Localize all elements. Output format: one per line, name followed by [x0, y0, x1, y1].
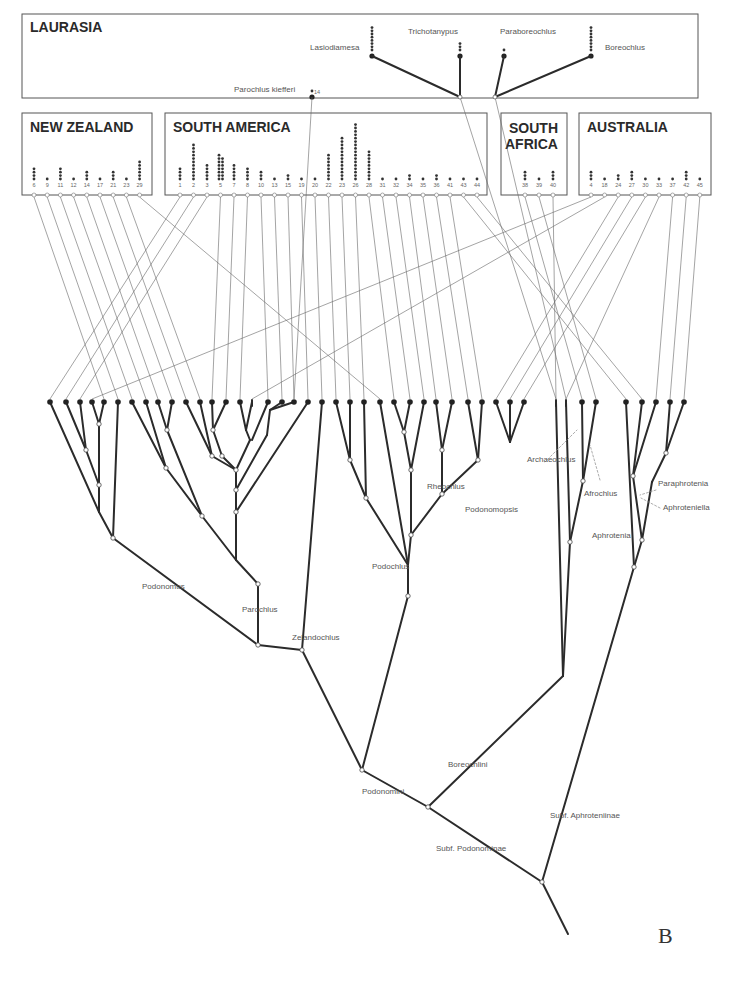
branch	[246, 430, 250, 440]
occurrence-dot	[99, 178, 102, 181]
area-node	[300, 193, 304, 197]
branch	[99, 402, 104, 424]
area-node	[394, 193, 398, 197]
branch	[92, 402, 99, 424]
sa-area-number: 26	[352, 182, 358, 188]
leaf-node	[639, 399, 645, 405]
occurrence-dot	[218, 161, 221, 164]
branch	[634, 540, 642, 567]
occurrence-dot	[179, 167, 182, 170]
leaf-node	[305, 399, 311, 405]
occurrence-dot	[459, 45, 462, 48]
area-node	[124, 193, 128, 197]
vicariance-cladogram: LAURASIANEW ZEALANDSOUTH AMERICASOUTHAFR…	[0, 0, 746, 984]
area-node	[589, 193, 593, 197]
leaf-node	[449, 399, 455, 405]
occurrence-dot	[590, 174, 593, 177]
occurrence-dot	[462, 178, 465, 181]
area-node	[671, 193, 675, 197]
clade-label: Boreochlini	[448, 760, 488, 769]
clade-label: Podonomus	[142, 582, 185, 591]
leaf-node	[361, 399, 367, 405]
connector-line	[342, 197, 350, 399]
branch	[582, 402, 583, 481]
sa-area-number: 43	[460, 182, 466, 188]
internal-node	[409, 533, 413, 537]
connector-line	[74, 197, 146, 399]
internal-node	[300, 648, 304, 652]
connector-line	[66, 197, 194, 399]
region-title: AUSTRALIA	[587, 119, 668, 135]
area-connector-lines	[34, 97, 700, 399]
occurrence-dot	[538, 178, 541, 181]
occurrence-dot	[341, 147, 344, 150]
occurrence-dot	[590, 39, 593, 42]
occurrence-dot	[371, 49, 374, 52]
occurrence-dot	[552, 178, 555, 181]
occurrence-dot	[206, 174, 209, 177]
branch	[542, 567, 634, 882]
connector-line	[315, 197, 322, 399]
branch	[626, 402, 634, 567]
sa-area-number: 13	[271, 182, 277, 188]
occurrence-dot	[354, 147, 357, 150]
branch	[372, 56, 460, 97]
internal-node	[360, 768, 364, 772]
branch	[642, 482, 652, 540]
area-node	[448, 193, 452, 197]
occurrence-dot	[233, 178, 236, 181]
occurrence-dot	[354, 133, 357, 136]
occurrence-dot	[368, 178, 371, 181]
sa-area-number: 20	[312, 182, 318, 188]
occurrence-dot	[221, 161, 224, 164]
leaf-node	[129, 399, 135, 405]
branch	[167, 402, 172, 430]
node	[458, 95, 462, 99]
occurrence-dot	[368, 154, 371, 157]
leaf-node	[391, 399, 397, 405]
branch	[336, 402, 350, 460]
occurrence-dot	[395, 178, 398, 181]
branch	[566, 402, 570, 542]
occurrence-dot	[590, 33, 593, 36]
internal-node	[111, 536, 115, 540]
occurrence-dot	[371, 42, 374, 45]
connector-line	[566, 197, 659, 399]
region-title: SOUTH AMERICA	[173, 119, 291, 135]
internal-node	[210, 454, 214, 458]
occurrence-dot	[206, 167, 209, 170]
occurrence-dot	[354, 167, 357, 170]
occurrence-dot	[218, 174, 221, 177]
leaf-node	[265, 399, 271, 405]
leaf-node	[279, 399, 285, 405]
occurrence-dot	[192, 164, 195, 167]
internal-node	[84, 448, 88, 452]
connector-line	[396, 197, 424, 399]
leaf-node	[623, 399, 629, 405]
sa-area-number: 22	[325, 182, 331, 188]
occurrence-dot	[524, 174, 527, 177]
connector-line	[60, 197, 132, 399]
internal-node	[220, 454, 224, 458]
occurrence-dot	[354, 130, 357, 133]
occurrence-dot	[630, 171, 633, 174]
internal-node	[97, 422, 101, 426]
occurrence-dot	[85, 174, 88, 177]
area-node	[178, 193, 182, 197]
occurrence-dot	[33, 178, 36, 181]
occurrence-dot	[33, 167, 36, 170]
branch	[240, 402, 246, 430]
branch	[380, 402, 408, 565]
sa-area-number: 5	[219, 182, 222, 188]
branch	[436, 402, 442, 450]
occurrence-dot	[354, 123, 357, 126]
occurrence-dot	[112, 174, 115, 177]
node	[493, 95, 497, 99]
occurrence-dot	[341, 150, 344, 153]
branch	[166, 468, 202, 516]
sa-area-number: 8	[246, 182, 249, 188]
branch	[258, 645, 302, 650]
occurrence-dot	[138, 171, 141, 174]
branch	[213, 402, 226, 430]
area-node	[205, 193, 209, 197]
